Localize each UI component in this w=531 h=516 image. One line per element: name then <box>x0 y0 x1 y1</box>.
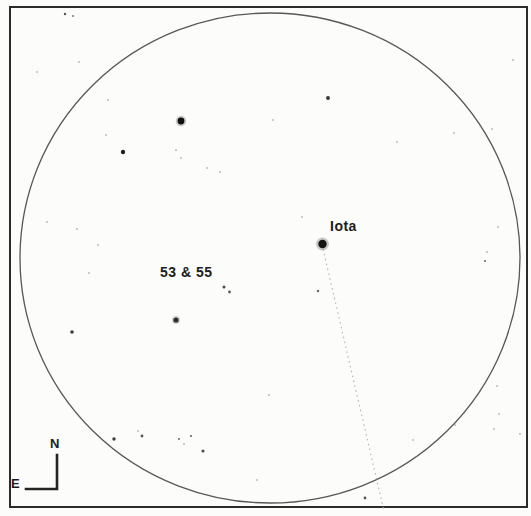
finder-chart: Iota 53 & 55 N E <box>0 0 531 516</box>
iota-star-label: Iota <box>330 219 357 233</box>
sky-plot <box>0 0 531 516</box>
compass-north-label: N <box>50 437 59 450</box>
pair-53-55-label: 53 & 55 <box>160 265 213 279</box>
compass-east-label: E <box>11 477 20 490</box>
